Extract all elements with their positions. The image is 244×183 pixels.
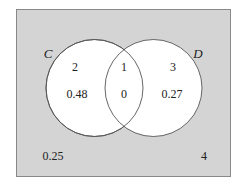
region-c-only-probability: 0.48	[67, 87, 88, 101]
region-c-only-count: 2	[72, 60, 78, 74]
region-outside-count: 4	[201, 149, 207, 163]
region-intersection-count: 1	[121, 60, 127, 74]
region-d-only-count: 3	[170, 60, 176, 74]
region-d-only-probability: 0.27	[162, 87, 183, 101]
region-outside-probability: 0.25	[43, 149, 64, 163]
set-d-label: D	[192, 46, 203, 61]
set-c-label: C	[44, 46, 53, 61]
set-d-circle-fill	[105, 40, 202, 137]
region-intersection-probability: 0	[121, 87, 127, 101]
venn-diagram: C D 2 0.48 1 0 3 0.27 0.25 4	[0, 0, 244, 183]
